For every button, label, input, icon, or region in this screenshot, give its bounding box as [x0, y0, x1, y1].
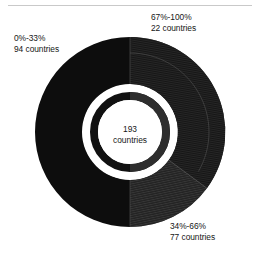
donut-chart-figure: 0%-33% 94 countries 67%-100% 22 countrie… [0, 0, 260, 268]
callout-label-67-100: 67%-100% 22 countries [151, 12, 196, 33]
callout-range-0-33: 0%-33% [14, 33, 59, 44]
center-total-unit: countries [98, 135, 162, 146]
callout-label-34-66: 34%-66% 77 countries [170, 221, 215, 242]
callout-count-0-33: 94 countries [14, 44, 59, 55]
center-total-value: 193 [98, 124, 162, 135]
callout-range-67-100: 67%-100% [151, 12, 196, 23]
callout-label-0-33: 0%-33% 94 countries [14, 33, 59, 54]
callout-range-34-66: 34%-66% [170, 221, 215, 232]
center-total-label: 193 countries [98, 124, 162, 145]
callout-count-34-66: 77 countries [170, 232, 215, 243]
callout-count-67-100: 22 countries [151, 23, 196, 34]
